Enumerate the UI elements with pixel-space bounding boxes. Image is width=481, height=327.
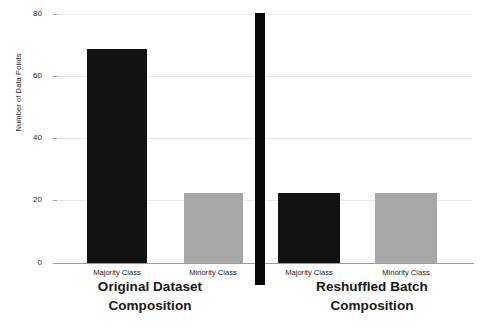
xtick-label-right-majority: Majority Class: [259, 268, 359, 277]
xtick-label-left-minority: Minority Class: [163, 268, 263, 277]
panel-title-right: Reshuffled Batch Composition: [268, 277, 476, 315]
ytick-label-20: 20: [2, 195, 42, 204]
bar-right-minority-class[interactable]: [375, 193, 437, 264]
ytick-mark-0: [53, 263, 57, 264]
ytick-label-60: 60: [2, 71, 42, 80]
bar-left-majority-class[interactable]: [87, 49, 147, 263]
ytick-mark-60: [53, 76, 57, 77]
figure-canvas: Number of Data Points 80 60 40 20 0 Majo…: [0, 0, 481, 327]
xtick-label-left-majority: Majority Class: [67, 268, 167, 277]
bar-left-minority-class[interactable]: [184, 193, 243, 264]
ytick-mark-40: [53, 138, 57, 139]
xtick-label-right-minority: Minority Class: [356, 268, 456, 277]
ytick-label-40: 40: [2, 133, 42, 142]
panel-divider: [255, 13, 265, 285]
ytick-mark-20: [53, 200, 57, 201]
bar-right-majority-class[interactable]: [278, 193, 340, 264]
panel-title-left-line1: Original Dataset: [48, 277, 252, 296]
panel-title-right-line1: Reshuffled Batch: [268, 277, 476, 296]
panel-title-left-line2: Composition: [48, 296, 252, 315]
panel-title-right-line2: Composition: [268, 296, 476, 315]
ytick-label-80: 80: [2, 9, 42, 18]
ytick-mark-80: [53, 14, 57, 15]
panel-title-left: Original Dataset Composition: [48, 277, 252, 315]
ytick-label-0: 0: [2, 258, 42, 267]
